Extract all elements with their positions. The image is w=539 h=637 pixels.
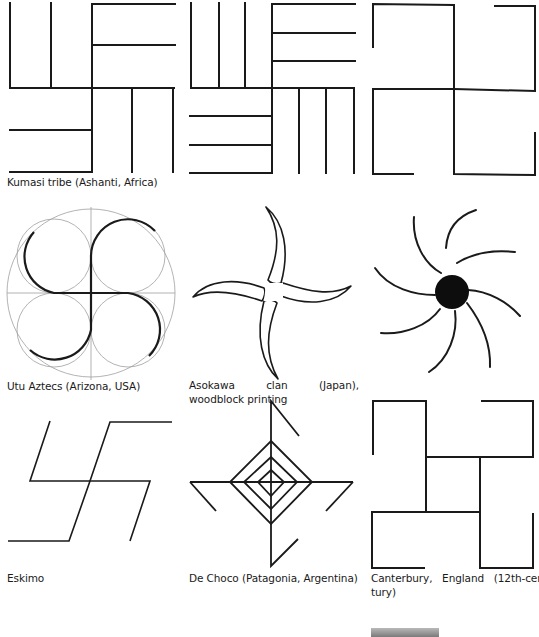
- utu-aztecs-figure: [7, 207, 175, 380]
- caption-eskimo: Eskimo: [7, 571, 182, 585]
- de-choco-figure: [190, 401, 353, 566]
- caption-canterbury: Canterbury, England (12th-cen- tury): [371, 571, 536, 599]
- kumasi-swastika-figure: [0, 0, 539, 637]
- caption-de-choco: De Choco (Patagonia, Argentina): [189, 571, 364, 585]
- caption-kumasi: Kumasi tribe (Ashanti, Africa): [7, 175, 182, 189]
- black-sun-figure: [375, 210, 520, 372]
- kumasi-variant-figure-lines: [190, 3, 355, 173]
- eskimo-figure: [8, 421, 172, 541]
- caption-utu-aztecs: Utu Aztecs (Arizona, USA): [7, 379, 182, 393]
- hooked-cross-figure-lines: [373, 4, 535, 175]
- grey-image-fragment: [371, 628, 439, 637]
- caption-canterbury-line1: Canterbury, England (12th-cen-: [371, 571, 536, 585]
- sun-disc: [435, 275, 469, 309]
- kumasi-figure-lines: [10, 3, 175, 172]
- caption-canterbury-line2: tury): [371, 585, 536, 599]
- asokawa-figure: [193, 207, 351, 379]
- caption-asokawa: Asokawa clan (Japan), woodblock printing: [189, 378, 359, 406]
- canterbury-figure: [372, 401, 533, 568]
